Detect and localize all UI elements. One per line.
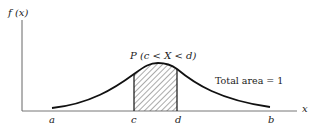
region-probability-label: P (c < X < d) xyxy=(130,50,196,61)
point-b-label: b xyxy=(268,114,274,125)
density-plot xyxy=(0,0,318,131)
point-d-label: d xyxy=(175,114,181,125)
point-c-label: c xyxy=(131,114,137,125)
point-a-label: a xyxy=(49,114,55,125)
y-axis-label: f (x) xyxy=(8,7,28,18)
x-axis-label: x xyxy=(302,103,308,114)
probability-density-diagram: f (x) x P (c < X < d) Total area = 1 a c… xyxy=(0,0,318,131)
shaded-probability-region xyxy=(52,63,270,111)
total-area-label: Total area = 1 xyxy=(215,75,283,86)
